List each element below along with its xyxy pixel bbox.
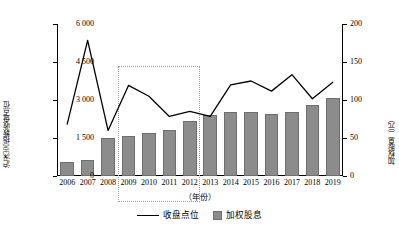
x-axis-label-2006: 2006 <box>57 179 77 187</box>
legend-item-weighted-dividend: 加权股息 <box>213 211 262 220</box>
plot-area <box>57 24 343 176</box>
x-axis-label-2012: 2012 <box>180 179 200 187</box>
x-axis-label-2011: 2011 <box>159 179 179 187</box>
y-axis-left-tick <box>53 176 57 177</box>
y-axis-left-title: 沪深300指数收盘点位 <box>4 48 11 168</box>
y-axis-right-tick-label: 50 <box>350 134 358 142</box>
y-axis-right-tick-label: 200 <box>350 20 362 28</box>
y-axis-right-tick <box>343 176 347 177</box>
x-axis-label-2017: 2017 <box>282 179 302 187</box>
x-axis-title: （年份） <box>0 194 399 202</box>
y-axis-left-tick-label: 6 000 <box>76 20 94 28</box>
chart-legend: 收盘点位 加权股息 <box>0 211 399 220</box>
x-axis-label-2008: 2008 <box>98 179 118 187</box>
y-axis-left-tick-label: 3 000 <box>76 96 94 104</box>
legend-label-weighted-dividend: 加权股息 <box>226 211 262 220</box>
legend-label-closing-points: 收盘点位 <box>163 211 199 220</box>
y-axis-right-tick <box>343 62 347 63</box>
y-axis-left-tick-label: 1 500 <box>76 134 94 142</box>
x-axis-label-2014: 2014 <box>220 179 240 187</box>
chart-container: 沪深300指数收盘点位 加权股息（元） 01 5003 0004 5006 00… <box>0 0 399 239</box>
x-axis-label-2013: 2013 <box>200 179 220 187</box>
y-axis-right-tick-label: 150 <box>350 58 362 66</box>
x-axis-label-2015: 2015 <box>241 179 261 187</box>
square-marker-icon <box>213 211 222 220</box>
y-axis-right-title: 加权股息（元） <box>389 55 396 165</box>
line-marker-icon <box>137 215 159 216</box>
line-series-closing-points <box>57 24 343 176</box>
x-axis-label-2009: 2009 <box>118 179 138 187</box>
legend-item-closing-points: 收盘点位 <box>137 211 199 220</box>
x-axis-label-2010: 2010 <box>139 179 159 187</box>
y-axis-right-tick-label: 100 <box>350 96 362 104</box>
x-axis-label-2019: 2019 <box>323 179 343 187</box>
y-axis-right-tick-label: 0 <box>350 172 354 180</box>
x-axis-label-2016: 2016 <box>261 179 281 187</box>
y-axis-left-tick-label: 4 500 <box>76 58 94 66</box>
y-axis-right-tick <box>343 100 347 101</box>
y-axis-right-tick <box>343 24 347 25</box>
x-axis-label-2007: 2007 <box>77 179 97 187</box>
y-axis-right-tick <box>343 138 347 139</box>
x-axis-label-2018: 2018 <box>302 179 322 187</box>
x-axis-labels: 2006200720082009201020112012201320142015… <box>57 179 343 193</box>
closing-points-polyline <box>67 40 333 130</box>
